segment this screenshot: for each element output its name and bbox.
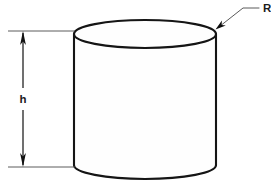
height-dimension-group: h (8, 31, 75, 167)
radius-label: R (263, 2, 271, 14)
radius-leader-group: R (216, 2, 272, 30)
figure-canvas: h R (0, 0, 271, 188)
cylinder-shape (74, 20, 216, 179)
height-label: h (19, 93, 26, 105)
leader-arrowhead (216, 21, 226, 30)
cylinder-figure: h R (0, 0, 271, 188)
leader-line-path (220, 8, 260, 27)
